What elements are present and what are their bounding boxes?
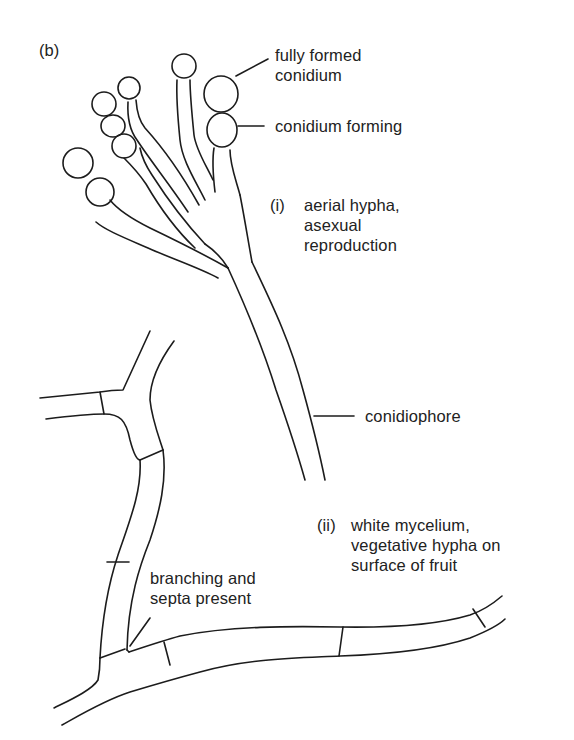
label-line: fully formed — [275, 45, 361, 65]
label-line: surface of fruit — [351, 556, 457, 574]
label-conidiophore: conidiophore — [365, 406, 461, 426]
label-conidium-forming: conidium forming — [275, 116, 402, 136]
fungal-hyphae-diagram — [0, 0, 574, 740]
label-line: reproduction — [304, 236, 397, 254]
label-line: aerial hypha, — [304, 196, 400, 214]
label-line: vegetative hypha on — [351, 536, 501, 554]
numeral-i: (i) — [270, 195, 304, 215]
numeral-ii: (ii) — [317, 515, 351, 535]
label-fully-formed-conidium: fully formed conidium — [275, 45, 361, 85]
label-line: branching and — [150, 568, 256, 588]
label-white-mycelium: (ii)white mycelium, vegetative hypha on … — [317, 515, 501, 575]
label-line: septa present — [150, 588, 256, 608]
label-line: conidium — [275, 65, 361, 85]
label-aerial-hypha: (i)aerial hypha, asexual reproduction — [270, 195, 400, 255]
label-branching-septa: branching and septa present — [150, 568, 256, 608]
label-line: white mycelium, — [351, 516, 470, 534]
panel-label: (b) — [39, 40, 59, 60]
label-line: asexual — [304, 216, 362, 234]
